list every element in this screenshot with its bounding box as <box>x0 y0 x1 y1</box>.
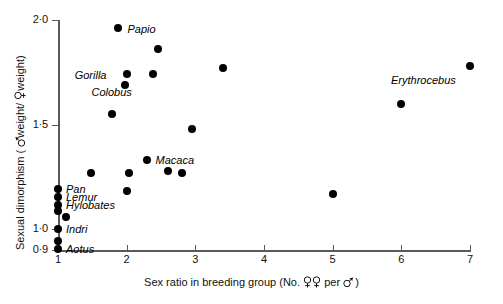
x-axis-label: Sex ratio in breeding group (No. per ) <box>0 276 503 288</box>
data-point[interactable] <box>154 45 162 53</box>
scatter-plot-figure: 0·91·01·52·0 1234567 PapioGorillaColobus… <box>0 0 503 304</box>
data-point[interactable] <box>108 110 116 118</box>
data-point[interactable] <box>54 225 62 233</box>
x-tick <box>127 245 128 251</box>
data-point[interactable] <box>329 190 337 198</box>
data-point[interactable] <box>54 245 62 253</box>
data-point[interactable] <box>125 169 133 177</box>
y-axis-label-prefix: Sexual dimorphism ( <box>14 150 26 250</box>
data-point[interactable] <box>188 125 196 133</box>
data-point[interactable] <box>54 193 62 201</box>
data-point[interactable] <box>54 207 62 215</box>
data-point-label: Indri <box>66 223 87 235</box>
data-point[interactable] <box>114 24 122 32</box>
x-tick-label: 6 <box>391 253 411 265</box>
data-point[interactable] <box>219 64 227 72</box>
data-point[interactable] <box>164 167 172 175</box>
y-axis-label-suffix: weight) <box>14 55 26 90</box>
female-symbol <box>312 276 321 288</box>
data-point-label: Aotus <box>66 243 94 255</box>
x-tick <box>264 245 265 251</box>
data-point[interactable] <box>123 70 131 78</box>
data-point[interactable] <box>397 100 405 108</box>
x-tick <box>195 245 196 251</box>
data-point[interactable] <box>87 169 95 177</box>
data-point[interactable] <box>54 237 62 245</box>
x-tick <box>333 245 334 251</box>
y-tick-label: 2·0 <box>20 13 48 25</box>
y-tick <box>52 125 58 126</box>
data-point-label: Hylobates <box>66 199 115 211</box>
data-point-label: Colobus <box>91 86 131 98</box>
data-point-label: Papio <box>127 23 155 35</box>
y-axis-label: Sexual dimorphism ( weight/ weight) <box>14 55 26 250</box>
x-tick <box>470 245 471 251</box>
data-point-label: Gorilla <box>75 69 107 81</box>
x-axis-label-middle: per <box>324 276 340 288</box>
y-tick <box>52 20 58 21</box>
x-tick-label: 3 <box>185 253 205 265</box>
x-tick <box>401 245 402 251</box>
female-symbol <box>303 276 312 288</box>
y-axis-line <box>58 20 60 251</box>
data-point[interactable] <box>466 62 474 70</box>
data-point[interactable] <box>178 169 186 177</box>
female-symbol <box>14 91 26 100</box>
data-point-label: Macaca <box>156 154 195 166</box>
y-axis-label-middle: weight/ <box>14 103 26 138</box>
male-symbol <box>343 276 352 288</box>
data-point[interactable] <box>62 213 70 221</box>
x-tick-label: 1 <box>48 253 68 265</box>
data-point[interactable] <box>143 156 151 164</box>
x-tick-label: 4 <box>254 253 274 265</box>
data-point-label: Erythrocebus <box>391 74 456 86</box>
data-point[interactable] <box>123 187 131 195</box>
male-symbol <box>14 138 26 147</box>
data-point[interactable] <box>149 70 157 78</box>
x-axis-label-suffix: ) <box>355 276 359 288</box>
x-axis-label-prefix: Sex ratio in breeding group (No. <box>144 276 300 288</box>
x-tick-label: 5 <box>323 253 343 265</box>
x-tick-label: 7 <box>460 253 480 265</box>
x-tick-label: 2 <box>117 253 137 265</box>
